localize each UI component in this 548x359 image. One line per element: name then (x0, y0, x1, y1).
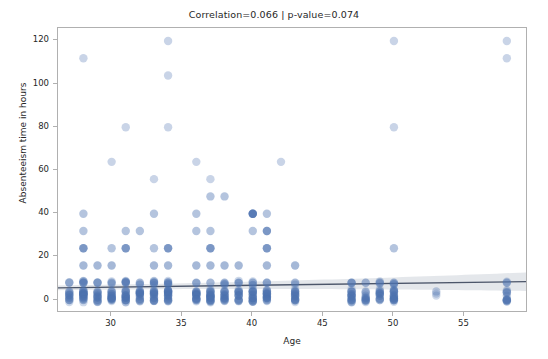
data-point (249, 296, 257, 304)
x-tick-mark (463, 312, 464, 316)
data-point (122, 123, 130, 131)
y-axis-label: Absenteeism time in hours (18, 28, 28, 258)
data-point (122, 279, 130, 287)
data-point (192, 279, 200, 287)
data-point (79, 279, 87, 287)
x-tick-label: 50 (378, 318, 408, 328)
x-tick-mark (251, 312, 252, 316)
data-point (206, 192, 214, 200)
data-point (150, 261, 158, 269)
y-tick-label: 100 (10, 78, 49, 88)
data-point (150, 209, 158, 217)
data-point (150, 279, 158, 287)
data-point (234, 261, 242, 269)
data-point (390, 279, 398, 287)
data-point (164, 296, 172, 304)
data-point (79, 296, 87, 304)
data-point (136, 279, 144, 287)
data-point (122, 227, 130, 235)
data-point (220, 192, 228, 200)
data-point (263, 244, 271, 252)
data-point (107, 279, 115, 287)
x-tick-label: 30 (96, 318, 126, 328)
data-point (192, 158, 200, 166)
data-point (390, 37, 398, 45)
data-point (107, 261, 115, 269)
data-point (263, 261, 271, 269)
x-tick-mark (110, 312, 111, 316)
data-point (107, 296, 115, 304)
data-point (93, 296, 101, 304)
x-tick-label: 55 (448, 318, 478, 328)
x-axis-label: Age (57, 336, 527, 346)
x-tick-mark (322, 312, 323, 316)
y-tick-label: 120 (10, 34, 49, 44)
data-point (150, 175, 158, 183)
data-point (206, 244, 214, 252)
data-point (206, 279, 214, 287)
data-point (164, 279, 172, 287)
x-tick-label: 45 (307, 318, 337, 328)
data-point (79, 261, 87, 269)
data-point (376, 279, 384, 287)
data-point (277, 158, 285, 166)
data-point (79, 209, 87, 217)
data-point (192, 296, 200, 304)
data-point (263, 296, 271, 304)
data-point (220, 261, 228, 269)
y-tick-label: 40 (10, 207, 49, 217)
data-point (263, 227, 271, 235)
x-tick-label: 40 (237, 318, 267, 328)
data-point (122, 296, 130, 304)
data-point (347, 296, 355, 304)
data-point (206, 296, 214, 304)
data-point (164, 123, 172, 131)
data-point (65, 296, 73, 304)
data-point (376, 296, 384, 304)
data-point (361, 279, 369, 287)
data-point (220, 296, 228, 304)
data-point (150, 296, 158, 304)
data-point (263, 279, 271, 287)
data-point (150, 244, 158, 252)
data-point (249, 227, 257, 235)
x-tick-mark (392, 312, 393, 316)
data-point (93, 261, 101, 269)
data-point (347, 279, 355, 287)
y-tick-label: 0 (10, 294, 49, 304)
data-point (291, 296, 299, 304)
data-point (192, 261, 200, 269)
data-point (164, 37, 172, 45)
data-point (503, 37, 511, 45)
data-point (164, 261, 172, 269)
data-point (503, 279, 511, 287)
data-point (220, 279, 228, 287)
y-tick-label: 60 (10, 164, 49, 174)
data-point (263, 209, 271, 217)
data-point (432, 287, 440, 295)
data-point (136, 227, 144, 235)
scatter-plot-figure: Correlation=0.066 | p-value=0.074 Absent… (0, 0, 548, 359)
data-point (291, 279, 299, 287)
y-tick-label: 20 (10, 250, 49, 260)
data-point (361, 296, 369, 304)
data-point (79, 227, 87, 235)
x-tick-label: 35 (166, 318, 196, 328)
data-point (234, 279, 242, 287)
data-point (122, 244, 130, 252)
data-point (107, 244, 115, 252)
data-point (192, 209, 200, 217)
data-point (390, 123, 398, 131)
data-point (503, 296, 511, 304)
x-tick-mark (181, 312, 182, 316)
data-point (164, 244, 172, 252)
data-point (164, 71, 172, 79)
data-point (136, 296, 144, 304)
data-point (291, 261, 299, 269)
data-point (79, 54, 87, 62)
data-point (206, 227, 214, 235)
data-point (390, 296, 398, 304)
plot-axes-area (57, 27, 527, 312)
y-tick-label: 80 (10, 121, 49, 131)
data-points (65, 37, 511, 307)
